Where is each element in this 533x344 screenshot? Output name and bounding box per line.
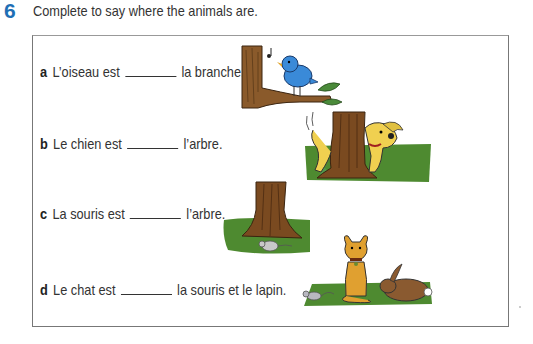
- sentence-end: l’arbre.: [183, 136, 222, 152]
- sentence-start: Le chat est: [53, 282, 115, 298]
- answer-blank-a[interactable]: [125, 66, 176, 77]
- sentence-d: dLe chat estla souris et le lapin.: [40, 282, 286, 298]
- answer-blank-b[interactable]: [127, 138, 178, 149]
- exercise-instruction: Complete to say where the animals are.: [33, 3, 258, 19]
- sentence-end: la branche.: [181, 64, 244, 80]
- sentence-start: La souris est: [52, 206, 124, 222]
- sentence-start: L’oiseau est: [52, 64, 119, 80]
- exercise-number: 6: [4, 0, 16, 23]
- bird-on-branch-illustration: [240, 42, 342, 110]
- sentence-start: Le chien est: [53, 136, 122, 152]
- item-letter: d: [40, 282, 48, 298]
- item-letter: c: [40, 206, 47, 222]
- cat-between-mouse-and-rabbit-illustration: [298, 234, 438, 306]
- answer-blank-d[interactable]: [121, 284, 172, 295]
- dog-behind-tree-illustration: [303, 108, 435, 184]
- scan-speck: [519, 306, 521, 308]
- sentence-end: la souris et le lapin.: [177, 282, 286, 298]
- sentence-c: cLa souris estl’arbre.: [40, 206, 225, 222]
- answer-blank-c[interactable]: [130, 208, 181, 219]
- sentence-a: aL’oiseau estla branche.: [40, 64, 245, 80]
- item-letter: b: [40, 136, 48, 152]
- item-letter: a: [40, 64, 47, 80]
- sentence-b: bLe chien estl’arbre.: [40, 136, 223, 152]
